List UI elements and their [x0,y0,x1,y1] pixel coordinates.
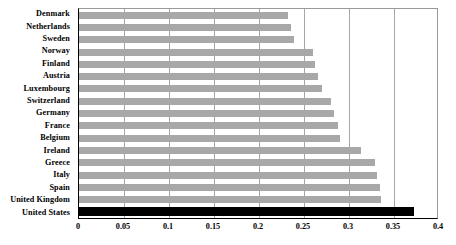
bar [79,98,331,105]
category-label: Denmark [0,8,74,20]
category-label: Italy [0,169,74,181]
bar-row [79,83,437,95]
bar [79,184,380,191]
bar [79,172,377,179]
plot-area [78,8,438,219]
bar [79,85,322,92]
category-label: Finland [0,58,74,70]
bar [79,207,414,216]
bar-row [79,144,437,156]
value-tick-label: 0 [76,222,80,231]
category-label: Norway [0,45,74,57]
bar-row [79,95,437,107]
value-tick-label: 0.3 [343,222,353,231]
bar-row [79,70,437,82]
category-label: Germany [0,107,74,119]
value-tick-label: 0.35 [386,222,400,231]
value-tick-label: 0.25 [296,222,310,231]
bar [79,36,294,43]
bar-row [79,169,437,181]
bar-row [79,21,437,33]
bar-row [79,157,437,169]
bar-row [79,120,437,132]
category-label: Spain [0,182,74,194]
bar-chart: DenmarkNetherlandsSwedenNorwayFinlandAus… [0,0,456,245]
category-label: Netherlands [0,20,74,32]
bar-row [79,9,437,21]
category-label: United States [0,207,74,219]
bar-row [79,46,437,58]
category-axis: DenmarkNetherlandsSwedenNorwayFinlandAus… [0,8,74,219]
value-tick-label: 0.2 [253,222,263,231]
bar-row [79,181,437,193]
bar-row [79,107,437,119]
category-label: Austria [0,70,74,82]
bar-row [79,193,437,205]
bar [79,147,361,154]
bar [79,196,381,203]
value-tick-label: 0.4 [433,222,443,231]
category-label: Belgium [0,132,74,144]
bar [79,110,334,117]
bar-row [79,206,437,218]
category-label: Luxembourg [0,82,74,94]
bar [79,61,315,68]
bar [79,122,338,129]
bar-row [79,58,437,70]
value-tick-label: 0.15 [206,222,220,231]
value-axis: 00.050.10.150.20.250.30.350.4 [78,220,438,236]
category-label: France [0,120,74,132]
category-label: Ireland [0,144,74,156]
bar-series [79,9,437,218]
bar-row [79,34,437,46]
bar [79,73,318,80]
bar-row [79,132,437,144]
bar [79,135,340,142]
category-label: Switzerland [0,95,74,107]
bar [79,12,288,19]
bar [79,49,313,56]
value-tick-label: 0.05 [116,222,130,231]
category-label: Sweden [0,33,74,45]
value-tick-label: 0.1 [163,222,173,231]
category-label: Greece [0,157,74,169]
bar [79,24,291,31]
bar [79,159,375,166]
category-label: United Kingdom [0,194,74,206]
